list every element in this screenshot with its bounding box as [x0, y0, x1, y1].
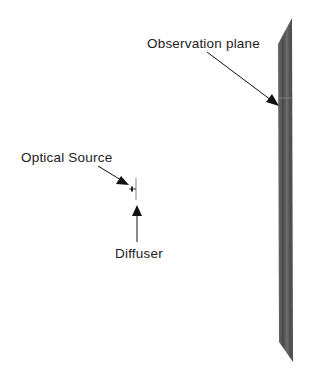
optical-source [129, 187, 136, 192]
observation-plane [278, 18, 293, 362]
diffuser-label: Diffuser [115, 246, 163, 261]
diagram-canvas [0, 0, 315, 380]
optical-source-label: Optical Source [21, 150, 112, 165]
diffuser-arrow [132, 205, 142, 242]
optical-source-arrow [98, 166, 129, 185]
observation-plane-arrow [207, 52, 279, 106]
observation-plane-label: Observation plane [147, 36, 260, 51]
